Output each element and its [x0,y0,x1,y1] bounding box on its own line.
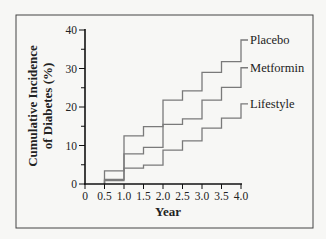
x-tick-label: 3.0 [195,190,210,202]
series-label-metformin: Metformin [250,61,305,75]
x-ticks: 00.51.01.52.02.53.03.54.0 [82,184,248,202]
x-tick-label: 2.0 [156,190,171,202]
y-tick-label: 0 [71,178,77,190]
y-tick-label: 10 [66,140,78,152]
y-tick-label: 20 [66,101,78,113]
x-tick-label: 0 [82,190,88,202]
series-label-placebo: Placebo [250,33,290,47]
x-tick-label: 4.0 [234,190,249,202]
x-tick-label: 1.5 [136,190,151,202]
diabetes-incidence-chart: Cumulative Incidence of Diabetes (%) Yea… [0,0,326,239]
x-tick-label: 0.5 [97,190,112,202]
x-tick-label: 2.5 [175,190,190,202]
series-labels: PlaceboMetforminLifestyle [250,33,305,111]
x-axis-label: Year [155,204,181,219]
y-tick-label: 30 [66,63,78,75]
series-label-lifestyle: Lifestyle [250,97,295,111]
y-axis-label-line-2: of Diabetes (%) [40,63,55,150]
x-tick-label: 1.0 [117,190,132,202]
y-tick-label: 40 [66,24,78,36]
series-lifestyle-line [105,104,249,184]
y-axis-label: Cumulative Incidence of Diabetes (%) [25,45,55,167]
y-ticks: 010203040 [66,24,86,190]
series-metformin-line [105,68,249,184]
x-tick-label: 3.5 [214,190,229,202]
series-lines [105,40,249,184]
y-axis-label-line-1: Cumulative Incidence [25,45,40,167]
series-placebo-line [105,40,249,184]
